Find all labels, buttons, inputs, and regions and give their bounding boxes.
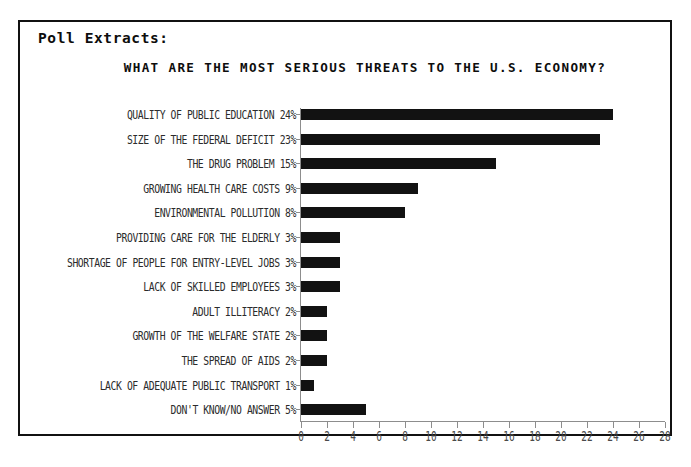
x-axis-tick-label: 26 xyxy=(627,427,652,445)
bar xyxy=(301,257,340,268)
bar-row-label: THE SPREAD OF AIDS 2% xyxy=(51,353,296,368)
bar-row-label: SIZE OF THE FEDERAL DEFICIT 23% xyxy=(51,131,296,146)
bar xyxy=(301,330,327,341)
bar-row: DON'T KNOW/NO ANSWER 5% xyxy=(20,403,670,428)
bar xyxy=(301,207,405,218)
bar-row: THE DRUG PROBLEM 15% xyxy=(20,157,670,182)
bar xyxy=(301,232,340,243)
bar-row-label: ENVIRONMENTAL POLLUTION 8% xyxy=(51,205,296,220)
bar-row-label: PROVIDING CARE FOR THE ELDERLY 3% xyxy=(51,230,296,245)
bar xyxy=(301,158,496,169)
x-axis-tick-label: 4 xyxy=(341,427,366,445)
x-axis-tick-label: 16 xyxy=(497,427,522,445)
x-axis-tick-label: 14 xyxy=(471,427,496,445)
bar-row-label: LACK OF SKILLED EMPLOYEES 3% xyxy=(51,279,296,294)
chart-title: WHAT ARE THE MOST SERIOUS THREATS TO THE… xyxy=(20,60,670,75)
x-axis-tick-label: 12 xyxy=(445,427,470,445)
bar-row-label: QUALITY OF PUBLIC EDUCATION 24% xyxy=(51,107,296,122)
bar-row-label: ADULT ILLITERACY 2% xyxy=(51,304,296,319)
bar-row: PROVIDING CARE FOR THE ELDERLY 3% xyxy=(20,231,670,256)
bar-row: SHORTAGE OF PEOPLE FOR ENTRY-LEVEL JOBS … xyxy=(20,256,670,281)
bar xyxy=(301,306,327,317)
bar-row: LACK OF ADEQUATE PUBLIC TRANSPORT 1% xyxy=(20,379,670,404)
bar-row: ENVIRONMENTAL POLLUTION 8% xyxy=(20,206,670,231)
x-axis-tick-label: 2 xyxy=(315,427,340,445)
x-axis-tick-label: 0 xyxy=(289,427,314,445)
section-label: Poll Extracts: xyxy=(38,30,169,46)
x-axis-tick-label: 22 xyxy=(575,427,600,445)
bar-row-label: DON'T KNOW/NO ANSWER 5% xyxy=(51,402,296,417)
bar-row: QUALITY OF PUBLIC EDUCATION 24% xyxy=(20,108,670,133)
bar-row: GROWTH OF THE WELFARE STATE 2% xyxy=(20,329,670,354)
bar-row-label: GROWING HEALTH CARE COSTS 9% xyxy=(51,181,296,196)
x-axis-tick-label: 20 xyxy=(549,427,574,445)
bar xyxy=(301,183,418,194)
bar xyxy=(301,134,600,145)
bar-row: LACK OF SKILLED EMPLOYEES 3% xyxy=(20,280,670,305)
bar-chart-plot-area: QUALITY OF PUBLIC EDUCATION 24%SIZE OF T… xyxy=(20,100,670,434)
bar-row-label: GROWTH OF THE WELFARE STATE 2% xyxy=(51,328,296,343)
bar xyxy=(301,109,613,120)
poll-extracts-panel: Poll Extracts: WHAT ARE THE MOST SERIOUS… xyxy=(18,20,672,436)
bar-row: ADULT ILLITERACY 2% xyxy=(20,305,670,330)
bar-row-label: THE DRUG PROBLEM 15% xyxy=(51,156,296,171)
bar xyxy=(301,404,366,415)
bar-row: THE SPREAD OF AIDS 2% xyxy=(20,354,670,379)
poll-extracts-chart-page: { "panel": { "section_label": "Poll Extr… xyxy=(0,0,691,467)
bar xyxy=(301,355,327,366)
x-axis-tick-label: 6 xyxy=(367,427,392,445)
x-axis-tick-label: 8 xyxy=(393,427,418,445)
x-axis-tick-label: 28 xyxy=(653,427,678,445)
bar xyxy=(301,380,314,391)
bar-row-label: LACK OF ADEQUATE PUBLIC TRANSPORT 1% xyxy=(51,377,296,392)
bar-row: SIZE OF THE FEDERAL DEFICIT 23% xyxy=(20,133,670,158)
x-axis-tick-label: 18 xyxy=(523,427,548,445)
bar-row-label: SHORTAGE OF PEOPLE FOR ENTRY-LEVEL JOBS … xyxy=(51,254,296,269)
x-axis-tick-label: 24 xyxy=(601,427,626,445)
x-axis-tick-label: 10 xyxy=(419,427,444,445)
bar xyxy=(301,281,340,292)
bar-row: GROWING HEALTH CARE COSTS 9% xyxy=(20,182,670,207)
